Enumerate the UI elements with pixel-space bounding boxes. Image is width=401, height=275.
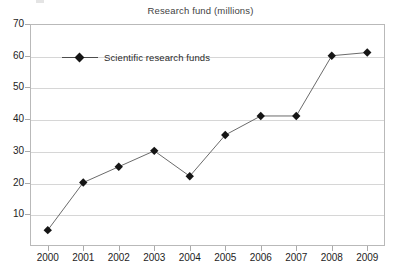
chart-legend: Scientific research funds: [62, 50, 210, 64]
data-point-2009: [363, 48, 371, 56]
series-line-scientific-research-funds: [48, 53, 368, 231]
data-series-layer: [0, 0, 401, 275]
data-point-2002: [115, 163, 123, 171]
legend-diamond-marker: [75, 52, 85, 62]
data-point-2003: [150, 147, 158, 155]
data-point-2000: [44, 226, 52, 234]
chart-screenshot: Research fund (millions) 10203040506070 …: [0, 0, 401, 275]
series-markers: [44, 48, 372, 234]
legend-label-scientific-research-funds: Scientific research funds: [104, 52, 210, 63]
data-point-2001: [79, 178, 87, 186]
legend-line-swatch: [62, 52, 98, 63]
data-point-2008: [328, 52, 336, 60]
data-point-2006: [257, 112, 265, 120]
data-point-2007: [292, 112, 300, 120]
